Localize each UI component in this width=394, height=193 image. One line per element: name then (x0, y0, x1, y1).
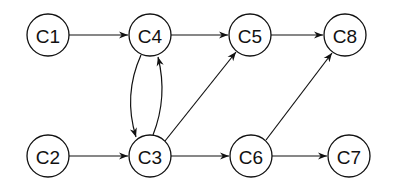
edges-layer (69, 35, 332, 156)
svg-text:C1: C1 (36, 26, 60, 47)
graph-diagram: C1 C4 C5 C8 C2 C3 C6 C7 (0, 0, 394, 193)
svg-text:C4: C4 (138, 26, 163, 47)
node-c4: C4 (129, 14, 171, 56)
edge-c3-c5 (165, 52, 236, 141)
svg-text:C6: C6 (239, 147, 263, 168)
svg-text:C7: C7 (337, 147, 361, 168)
edge-c6-c8 (266, 53, 332, 140)
node-c1: C1 (27, 14, 69, 56)
node-c6: C6 (230, 135, 272, 177)
svg-text:C2: C2 (36, 147, 60, 168)
node-c3: C3 (129, 135, 171, 177)
node-c2: C2 (27, 135, 69, 177)
svg-text:C3: C3 (138, 147, 162, 168)
edge-c4-c3 (131, 55, 141, 137)
svg-text:C5: C5 (238, 26, 262, 47)
svg-text:C8: C8 (333, 26, 357, 47)
node-c5: C5 (229, 14, 271, 56)
edge-c3-c4 (153, 57, 162, 135)
node-c8: C8 (324, 14, 366, 56)
graph-svg: C1 C4 C5 C8 C2 C3 C6 C7 (0, 0, 394, 193)
nodes-layer: C1 C4 C5 C8 C2 C3 C6 C7 (27, 14, 370, 177)
node-c7: C7 (328, 135, 370, 177)
